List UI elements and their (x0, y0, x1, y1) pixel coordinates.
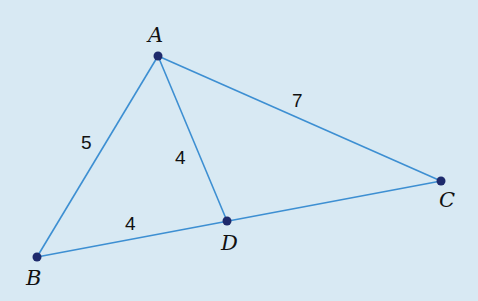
length-label-AB: 5 (81, 132, 92, 153)
point-D (223, 217, 232, 226)
point-C (437, 177, 446, 186)
length-label-AD: 4 (175, 147, 186, 168)
point-A (154, 52, 163, 61)
background (0, 0, 478, 301)
label-point-B: B (25, 266, 41, 290)
triangle-diagram: A B C D 5 7 4 4 (0, 0, 478, 301)
label-point-D: D (220, 231, 238, 255)
length-label-BD: 4 (125, 213, 136, 234)
point-B (33, 253, 42, 262)
label-point-A: A (146, 23, 163, 47)
label-point-C: C (439, 188, 455, 212)
diagram-canvas: A B C D 5 7 4 4 (0, 0, 478, 301)
length-label-AC: 7 (292, 90, 303, 111)
